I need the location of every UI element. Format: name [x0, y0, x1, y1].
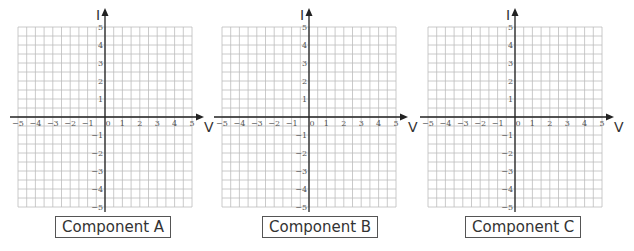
x-tick-label: −5 [12, 119, 24, 128]
y-tick-label: 1 [302, 95, 307, 104]
x-tick-label: 3 [565, 119, 570, 128]
x-tick-label: 4 [376, 119, 381, 128]
x-tick-label: −2 [64, 119, 76, 128]
graph-component-a: VI−5−4−3−2−1012345−5−4−3−2−112345 Compon… [0, 0, 215, 251]
x-tick-label: −2 [474, 119, 486, 128]
x-tick-label: 1 [324, 119, 329, 128]
x-tick-label: 3 [359, 119, 364, 128]
x-tick-label: −4 [30, 119, 42, 128]
x-tick-label: −4 [440, 119, 452, 128]
x-tick-label: −3 [251, 119, 263, 128]
y-tick-label: 3 [98, 59, 103, 68]
x-tick-label: 0 [309, 119, 314, 128]
component-a-label: Component A [55, 216, 171, 238]
y-tick-label: −2 [295, 149, 307, 158]
y-tick-label: −4 [501, 185, 513, 194]
iv-graph-b: VI−5−4−3−2−1012345−5−4−3−2−112345 [204, 0, 419, 215]
y-axis-label: I [506, 7, 510, 23]
y-axis-arrow-icon [306, 8, 313, 16]
y-tick-label: 4 [302, 41, 307, 50]
y-tick-label: −5 [295, 203, 307, 212]
x-tick-label: −1 [286, 119, 298, 128]
x-axis-arrow-icon [400, 114, 408, 121]
y-tick-label: 5 [98, 23, 103, 32]
y-tick-label: −4 [295, 185, 307, 194]
y-axis-label: I [300, 7, 304, 23]
x-tick-label: 1 [120, 119, 125, 128]
y-tick-label: 3 [302, 59, 307, 68]
x-tick-label: 5 [393, 119, 398, 128]
y-tick-label: −2 [91, 149, 103, 158]
x-axis-arrow-icon [196, 114, 204, 121]
x-tick-label: 2 [547, 119, 552, 128]
x-axis-arrow-icon [606, 114, 614, 121]
x-tick-label: 2 [341, 119, 346, 128]
y-tick-label: 4 [98, 41, 103, 50]
y-tick-label: 5 [302, 23, 307, 32]
y-tick-label: −5 [501, 203, 513, 212]
component-b-label: Component B [262, 216, 378, 238]
y-tick-label: 2 [302, 77, 307, 86]
iv-graph-c: VI−5−4−3−2−1012345−5−4−3−2−112345 [410, 0, 634, 215]
x-tick-label: −1 [492, 119, 504, 128]
component-c-label: Component C [465, 216, 581, 238]
x-tick-label: −3 [47, 119, 59, 128]
x-tick-label: −1 [82, 119, 94, 128]
y-tick-label: 4 [508, 41, 513, 50]
y-axis-arrow-icon [102, 8, 109, 16]
x-tick-label: −3 [457, 119, 469, 128]
y-tick-label: −3 [501, 167, 513, 176]
y-tick-label: −3 [91, 167, 103, 176]
x-tick-label: 4 [172, 119, 177, 128]
x-tick-label: 0 [515, 119, 520, 128]
x-tick-label: 5 [599, 119, 604, 128]
graph-component-b: VI−5−4−3−2−1012345−5−4−3−2−112345 Compon… [204, 0, 419, 251]
y-tick-label: 2 [98, 77, 103, 86]
graph-component-c: VI−5−4−3−2−1012345−5−4−3−2−112345 Compon… [410, 0, 634, 251]
x-axis-label: V [614, 119, 624, 135]
x-tick-label: −5 [422, 119, 434, 128]
x-tick-label: −5 [216, 119, 228, 128]
x-tick-label: 1 [530, 119, 535, 128]
y-tick-label: −3 [295, 167, 307, 176]
y-tick-label: −5 [91, 203, 103, 212]
y-tick-label: −1 [91, 131, 103, 140]
x-tick-label: −4 [234, 119, 246, 128]
y-tick-label: −4 [91, 185, 103, 194]
iv-graph-a: VI−5−4−3−2−1012345−5−4−3−2−112345 [0, 0, 215, 215]
y-axis-arrow-icon [512, 8, 519, 16]
x-tick-label: 5 [189, 119, 194, 128]
y-axis-label: I [96, 7, 100, 23]
y-tick-label: 1 [98, 95, 103, 104]
x-tick-label: 0 [105, 119, 110, 128]
y-tick-label: 2 [508, 77, 513, 86]
y-tick-label: −1 [295, 131, 307, 140]
x-tick-label: −2 [268, 119, 280, 128]
y-tick-label: 1 [508, 95, 513, 104]
x-tick-label: 3 [155, 119, 160, 128]
y-tick-label: 5 [508, 23, 513, 32]
y-tick-label: −2 [501, 149, 513, 158]
y-tick-label: 3 [508, 59, 513, 68]
x-tick-label: 2 [137, 119, 142, 128]
y-tick-label: −1 [501, 131, 513, 140]
x-tick-label: 4 [582, 119, 587, 128]
